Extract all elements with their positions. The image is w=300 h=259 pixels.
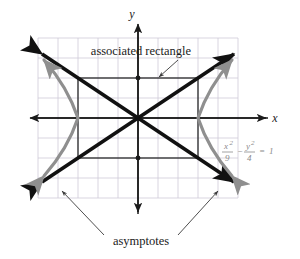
rectangle-bottom-midpoint — [136, 156, 141, 161]
equation-den-9: 9 — [225, 153, 230, 163]
hyperbola-figure: x y associated rectangle asymptotes x 2 — [0, 0, 300, 259]
figure-canvas: x y associated rectangle asymptotes x 2 — [0, 0, 300, 259]
equation-rhs: 1 — [269, 146, 274, 156]
x-axis-label: x — [271, 111, 278, 125]
equation-num-y: y — [245, 141, 250, 151]
asymptotes-label: asymptotes — [113, 234, 169, 248]
equation-equals: = — [259, 146, 265, 156]
equation-den-4: 4 — [247, 153, 252, 163]
equation-num-x: x — [223, 141, 228, 151]
equation-minus: − — [237, 146, 243, 156]
y-axis-label: y — [128, 7, 135, 21]
equation-num-x-exponent: 2 — [230, 139, 234, 147]
associated-rectangle-label: associated rectangle — [91, 44, 192, 58]
equation-num-y-exponent: 2 — [251, 139, 255, 147]
rectangle-top-midpoint — [136, 76, 141, 81]
figure-background — [0, 0, 300, 259]
